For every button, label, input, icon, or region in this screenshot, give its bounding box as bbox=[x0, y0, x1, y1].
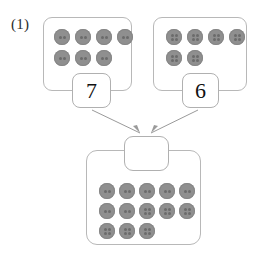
button-token-2hole bbox=[75, 50, 91, 66]
addend-value-right: 6 bbox=[182, 73, 219, 108]
button-token-2hole bbox=[75, 29, 91, 45]
button-token-2hole bbox=[99, 183, 115, 199]
button-row bbox=[99, 223, 195, 239]
button-token-4hole bbox=[139, 223, 155, 239]
button-token-2hole bbox=[119, 183, 135, 199]
button-token-2hole bbox=[139, 183, 155, 199]
button-grid-right bbox=[166, 29, 245, 66]
button-token-4hole bbox=[119, 223, 135, 239]
button-row bbox=[99, 203, 195, 219]
button-token-2hole bbox=[99, 203, 115, 219]
button-token-4hole bbox=[208, 29, 224, 45]
button-row bbox=[166, 29, 245, 45]
button-token-2hole bbox=[179, 183, 195, 199]
button-token-2hole bbox=[96, 29, 112, 45]
button-token-4hole bbox=[179, 203, 195, 219]
button-token-2hole bbox=[54, 50, 70, 66]
button-token-2hole bbox=[119, 203, 135, 219]
button-token-4hole bbox=[166, 29, 182, 45]
button-row bbox=[54, 50, 133, 66]
button-grid-sum bbox=[99, 183, 195, 239]
button-token-2hole bbox=[117, 29, 133, 45]
button-token-4hole bbox=[139, 203, 155, 219]
button-token-4hole bbox=[99, 223, 115, 239]
button-row bbox=[99, 183, 195, 199]
arrow-left-to-sum-line bbox=[92, 110, 140, 133]
button-grid-left bbox=[54, 29, 133, 66]
arrow-right-to-sum-head bbox=[151, 125, 158, 133]
problem-number-label: (1) bbox=[11, 16, 29, 33]
button-token-4hole bbox=[187, 50, 203, 66]
arrow-left-to-sum-head bbox=[133, 125, 140, 133]
button-token-2hole bbox=[159, 183, 175, 199]
button-token-4hole bbox=[159, 203, 175, 219]
button-token-4hole bbox=[229, 29, 245, 45]
addend-value-left: 7 bbox=[72, 73, 111, 108]
arrow-right-to-sum-line bbox=[151, 110, 198, 133]
button-row bbox=[166, 50, 245, 66]
worksheet-canvas: (1) bbox=[0, 0, 261, 257]
button-token-4hole bbox=[166, 50, 182, 66]
sum-answer-input[interactable] bbox=[124, 136, 169, 171]
button-token-2hole bbox=[54, 29, 70, 45]
button-token-4hole bbox=[187, 29, 203, 45]
button-row bbox=[54, 29, 133, 45]
button-token-2hole bbox=[96, 50, 112, 66]
